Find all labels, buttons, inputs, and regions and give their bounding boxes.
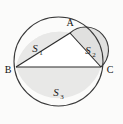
figure-canvas: S 1 S 2 S 3 A B C	[0, 0, 123, 124]
region-s3-subscript: 3	[60, 93, 64, 101]
region-s1-subscript: 1	[39, 49, 43, 57]
region-s3-symbol: S	[53, 86, 59, 98]
region-s1-symbol: S	[32, 42, 38, 54]
region-s2-subscript: 2	[92, 51, 96, 59]
vertex-label-a: A	[66, 17, 74, 28]
vertex-label-b: B	[5, 64, 12, 75]
vertex-label-c: C	[107, 64, 114, 75]
region-s2-symbol: S	[85, 44, 91, 56]
geometry-figure: S 1 S 2 S 3 A B C	[0, 0, 123, 124]
